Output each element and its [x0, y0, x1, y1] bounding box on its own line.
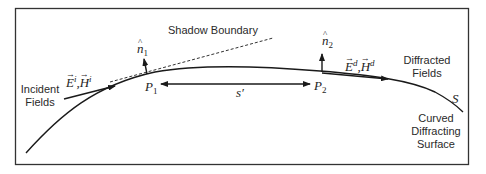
- surface-label-line2: Diffracting: [405, 125, 467, 138]
- diffracted-h-sup: d: [370, 58, 375, 68]
- incident-h-symbol: H: [80, 76, 89, 90]
- incident-e-symbol: E: [66, 76, 74, 90]
- normal-n2-label: n2: [322, 34, 333, 52]
- point-p2-label: P2: [314, 79, 326, 97]
- diffracted-fields-label: Diffracted Fields: [396, 54, 458, 80]
- diffraction-diagram: Shadow Boundary Incident Fields Diffract…: [0, 0, 486, 174]
- shadow-boundary-label: Shadow Boundary: [168, 24, 258, 37]
- p2-sub: 2: [322, 85, 327, 95]
- incident-h-sup: i: [89, 74, 92, 84]
- normal-n1-label: n1: [137, 42, 148, 60]
- diffracted-label-line1: Diffracted: [396, 54, 458, 67]
- p2-base: P: [314, 78, 322, 93]
- n1-sub: 1: [144, 48, 149, 58]
- arc-length-label: s′: [236, 86, 244, 100]
- diffracted-h-symbol: H: [361, 60, 370, 74]
- surface-label-line1: Curved: [405, 112, 467, 125]
- normal-n1-arrow: [144, 59, 147, 74]
- incident-label-line2: Fields: [16, 96, 64, 109]
- p1-sub: 1: [153, 86, 158, 96]
- incident-fields-label: Incident Fields: [16, 83, 64, 109]
- surface-s-label: S: [452, 92, 459, 106]
- curved-surface-label: Curved Diffracting Surface: [405, 112, 467, 151]
- n2-base: n: [322, 34, 329, 48]
- incident-field-symbols: Ei,Hi: [66, 72, 92, 90]
- diffracted-e-symbol: E: [345, 60, 353, 74]
- shadow-boundary-line: [110, 38, 273, 82]
- diffracted-field-symbols: Ed,Hd: [345, 56, 375, 74]
- diffracted-label-line2: Fields: [396, 67, 458, 80]
- n2-sub: 2: [329, 40, 334, 50]
- surface-label-line3: Surface: [405, 138, 467, 151]
- incident-label-line1: Incident: [16, 83, 64, 96]
- n1-base: n: [137, 42, 144, 56]
- p1-base: P: [145, 79, 153, 94]
- point-p1-label: P1: [145, 80, 157, 98]
